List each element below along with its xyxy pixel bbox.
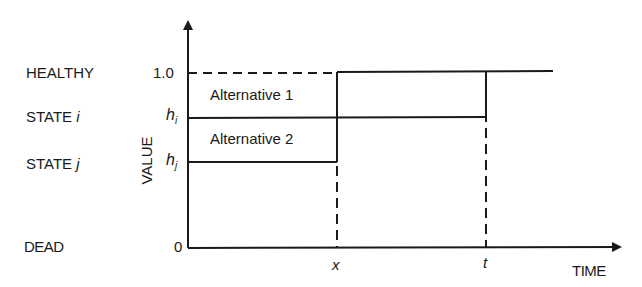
x-tick-x: x (332, 256, 340, 273)
h-j-base: h (166, 151, 175, 168)
state-label-healthy: HEALTHY (26, 64, 94, 81)
h-j-sub: j (175, 160, 177, 171)
state-label-j: STATE j (26, 155, 80, 172)
healthy-solid-line (337, 71, 553, 72)
state-j-var: j (76, 155, 79, 172)
state-label-i: STATE i (26, 108, 80, 125)
y-axis-label: VALUE (138, 136, 155, 184)
state-label-dead: DEAD (24, 238, 64, 255)
h-i-base: h (166, 106, 175, 123)
state-j-prefix: STATE (26, 155, 76, 172)
region-alternative-2: Alternative 2 (210, 130, 293, 147)
state-i-var: i (76, 108, 79, 125)
y-tick-h-i: hi (166, 106, 177, 126)
y-tick-h-j: hj (166, 151, 177, 171)
h-i-sub: i (175, 115, 177, 126)
diagram-canvas (0, 0, 642, 287)
y-tick-one: 1.0 (153, 64, 174, 81)
state-i-prefix: STATE (26, 108, 76, 125)
y-tick-zero: 0 (174, 238, 182, 255)
region-alternative-1: Alternative 1 (210, 86, 293, 103)
x-axis (188, 247, 620, 248)
x-axis-label: TIME (572, 262, 606, 279)
x-tick-t: t (483, 254, 487, 271)
